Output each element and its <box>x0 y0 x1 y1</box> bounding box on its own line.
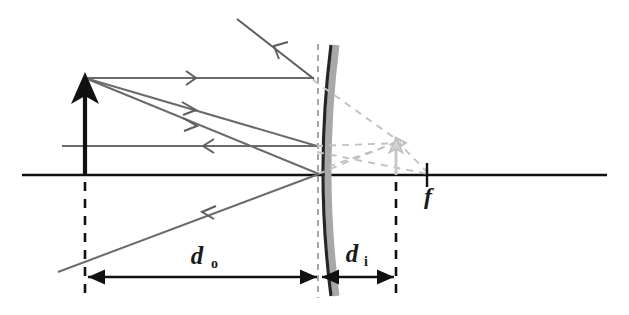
ray-diagram-canvas: d o d i f <box>0 0 629 315</box>
virtual-ray-to-focal-point <box>317 152 428 174</box>
incident-ray-to-vertex <box>85 78 319 174</box>
reflected-ray-lower-left <box>58 174 319 272</box>
reflected-rays <box>58 19 319 272</box>
incident-ray-to-vertex-arrowhead <box>183 118 197 131</box>
image-distance-subscript: i <box>364 254 368 269</box>
object-distance-label: d o <box>191 242 218 271</box>
incident-rays <box>85 71 319 174</box>
object-distance-subscript: o <box>211 256 218 271</box>
image-distance-symbol: d <box>346 240 359 267</box>
object-distance-symbol: d <box>191 242 204 269</box>
mirror-shadow <box>328 45 336 296</box>
incident-ray-to-focus <box>85 78 317 146</box>
optics-ray-diagram: d o d i f <box>0 0 629 315</box>
virtual-ray-image-to-axis <box>330 143 396 166</box>
focal-point-label: f <box>424 183 434 209</box>
object-arrow <box>71 72 99 176</box>
image-distance-label: d i <box>346 240 368 269</box>
